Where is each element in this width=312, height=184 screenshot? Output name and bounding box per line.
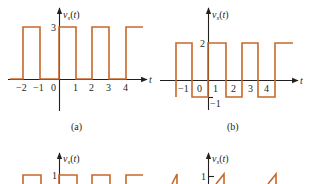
x-tick-label: −2 [16, 82, 27, 93]
signal-trace [216, 174, 224, 184]
signal-trace [268, 174, 276, 184]
y-tick-label: 1 [201, 171, 206, 182]
signal-trace [126, 175, 143, 184]
signal-trace [10, 27, 143, 79]
y-axis-label: vs(t) [212, 9, 229, 22]
figure-canvas: vs(t) t 3 −2 −1 0 1 2 3 4 (a) vs(t) t 2 … [0, 0, 312, 184]
signal-trace [59, 175, 77, 184]
x-tick-label: 4 [264, 83, 269, 94]
panel-caption: (b) [227, 121, 239, 133]
x-tick-label: 3 [106, 82, 111, 93]
y-axis-label: vs(t) [63, 153, 80, 166]
panel-a: vs(t) t 3 −2 −1 0 1 2 3 4 (a) [8, 8, 152, 133]
signal-trace [23, 175, 41, 184]
y-tick-label: −1 [210, 98, 221, 109]
y-tick-label: 2 [200, 38, 205, 49]
panel-d: vs(t) 1 [172, 153, 276, 184]
signal-trace [92, 175, 110, 184]
x-tick-label: 1 [73, 82, 78, 93]
y-axis-label: vs(t) [212, 153, 229, 166]
x-tick-label: 1 [213, 83, 218, 94]
x-tick-label: 0 [197, 83, 202, 94]
signal-trace [172, 174, 177, 184]
panel-c: vs(t) 1 [23, 153, 143, 184]
y-axis-label: vs(t) [63, 9, 80, 22]
x-axis-label: t [149, 74, 152, 85]
panel-b: vs(t) t 2 −1 −1 0 1 2 3 4 (b) [160, 8, 303, 133]
x-tick-label: 2 [231, 83, 236, 94]
x-tick-label: 4 [123, 82, 128, 93]
x-tick-label: 0 [51, 82, 56, 93]
x-tick-label: 3 [248, 83, 253, 94]
y-tick-label: 1 [52, 170, 57, 181]
x-tick-label: 2 [89, 82, 94, 93]
panel-caption: (a) [71, 121, 82, 133]
x-tick-label: −1 [33, 82, 44, 93]
x-axis-label: t [300, 75, 303, 86]
y-tick-label: 3 [51, 22, 56, 33]
x-tick-label: −1 [178, 83, 189, 94]
